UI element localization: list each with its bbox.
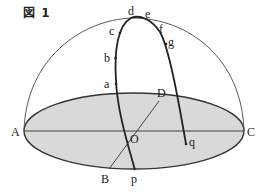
point-c-dot [119,32,122,35]
sphere-diagram: A C B D O p q a b c d e f g [0,0,260,192]
label-g: g [168,35,174,49]
point-a-dot [115,83,118,86]
label-C: C [247,125,255,139]
point-b-dot [114,57,117,60]
label-c: c [109,24,114,38]
label-D: D [157,86,166,100]
label-f: f [159,22,163,36]
point-g-dot [165,43,168,46]
label-A: A [11,125,20,139]
label-d: d [128,4,134,18]
label-O: O [130,132,139,146]
label-p: p [131,172,137,186]
celestial-sphere-figure: 図 1 A C B D O p q a b c d e f g [0,0,260,192]
label-b: b [104,51,110,65]
label-e: e [145,7,150,21]
point-q-dot [185,143,188,146]
label-B: B [101,172,109,186]
label-q: q [189,135,195,149]
label-a: a [104,77,110,91]
